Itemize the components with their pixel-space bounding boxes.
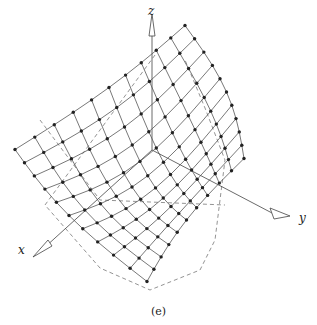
mesh-node — [152, 268, 155, 271]
mesh-node — [124, 73, 127, 76]
mesh-node — [187, 67, 190, 70]
mesh-node — [156, 235, 159, 238]
mesh-node — [147, 130, 150, 133]
dashed-projection — [40, 55, 225, 290]
mesh-node — [145, 280, 148, 283]
mesh-node — [202, 50, 205, 53]
y-axis-label: y — [298, 211, 306, 225]
mesh-node — [148, 208, 151, 211]
mesh-node — [193, 37, 196, 40]
mesh-node — [223, 147, 226, 150]
mesh-node — [72, 195, 75, 198]
mesh-node — [215, 122, 218, 125]
mesh-node — [33, 174, 36, 177]
mesh-node — [130, 185, 133, 188]
mesh-node — [135, 218, 138, 221]
mesh-node — [182, 192, 185, 195]
mesh-node — [162, 161, 165, 164]
mesh-node — [195, 178, 198, 181]
mesh-line — [185, 26, 244, 159]
mesh-node — [80, 129, 83, 132]
mesh-node — [70, 157, 73, 160]
mesh-node — [90, 98, 93, 101]
mesh-node — [55, 201, 58, 204]
mesh-node — [169, 36, 172, 39]
mesh-node — [95, 221, 98, 224]
mesh-node — [201, 186, 204, 189]
mesh-line — [15, 26, 185, 150]
mesh-line — [15, 150, 147, 282]
mesh-node — [88, 188, 91, 191]
x-axis-arrow-icon — [33, 240, 52, 257]
mesh-node — [230, 169, 233, 172]
mesh-node — [163, 66, 166, 69]
mesh-node — [166, 224, 169, 227]
mesh-line — [35, 137, 154, 269]
mesh-node — [169, 173, 172, 176]
mesh-node — [147, 246, 150, 249]
mesh-node — [139, 112, 142, 115]
mesh-node — [178, 145, 181, 148]
mesh-node — [53, 123, 56, 126]
mesh-node — [134, 236, 137, 239]
mesh-node — [187, 114, 190, 117]
mesh-node — [219, 135, 222, 138]
mesh-node — [13, 148, 16, 151]
mesh-node — [88, 148, 91, 151]
mesh-node — [218, 77, 221, 80]
mesh-node — [122, 226, 125, 229]
mesh-node — [124, 207, 127, 210]
mesh-node — [190, 168, 193, 171]
mesh-node — [225, 90, 228, 93]
mesh-node — [81, 227, 84, 230]
mesh-node — [112, 253, 115, 256]
mesh-node — [61, 181, 64, 184]
mesh-node — [115, 106, 118, 109]
mesh-node — [162, 196, 165, 199]
mesh-node — [128, 267, 131, 270]
mesh-node — [214, 172, 217, 175]
mesh-node — [155, 146, 158, 149]
mesh-node — [96, 240, 99, 243]
mesh-node — [163, 115, 166, 118]
mesh-node — [193, 128, 196, 131]
mesh-node — [230, 104, 233, 107]
mesh-node — [171, 131, 174, 134]
mesh-node — [145, 227, 148, 230]
mesh-node — [218, 181, 221, 184]
mesh-node — [122, 171, 125, 174]
mesh-node — [148, 80, 151, 83]
y-axis — [152, 150, 272, 213]
mesh-node — [96, 165, 99, 168]
mesh-node — [176, 183, 179, 186]
mesh-node — [159, 255, 162, 258]
mesh-node — [146, 174, 149, 177]
mesh-node — [238, 130, 241, 133]
mesh-node — [176, 231, 179, 234]
mesh-node — [209, 162, 212, 165]
mesh-node — [33, 135, 36, 138]
mesh-node — [123, 125, 126, 128]
mesh-node — [83, 208, 86, 211]
figure-caption: (e) — [0, 305, 317, 318]
y-axis-arrow-icon — [270, 208, 290, 219]
mesh-node — [155, 49, 158, 52]
mesh-node — [131, 143, 134, 146]
mesh-node — [61, 140, 64, 143]
mesh-node — [51, 166, 54, 169]
mesh-node — [140, 61, 143, 64]
mesh-node — [114, 155, 117, 158]
mesh-node — [227, 158, 230, 161]
mesh-node — [137, 256, 140, 259]
x-axis-label: x — [18, 243, 25, 257]
mesh-node — [184, 158, 187, 161]
mesh-node — [123, 245, 126, 248]
mesh-node — [179, 99, 182, 102]
mesh-node — [67, 214, 70, 217]
mesh-node — [139, 198, 142, 201]
mesh-node — [157, 216, 160, 219]
mesh-node — [72, 111, 75, 114]
mesh-node — [189, 199, 192, 202]
mesh-node — [177, 212, 180, 215]
mesh-node — [99, 202, 102, 205]
